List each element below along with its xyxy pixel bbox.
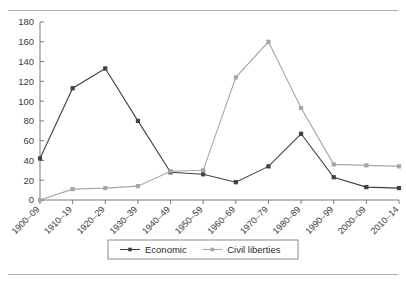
top-divider-rule	[8, 10, 398, 11]
data-series-group	[38, 40, 400, 201]
y-axis-tick-label: 120	[18, 76, 34, 87]
data-point	[234, 76, 237, 79]
y-axis: 020406080100120140160180	[18, 16, 44, 205]
figure-container: 020406080100120140160180 1900–091910–191…	[0, 0, 406, 284]
x-axis-tick-label: 1930–39	[107, 204, 139, 236]
data-point	[202, 173, 205, 176]
series-line-civil-liberties	[40, 42, 399, 200]
legend-marker	[210, 248, 214, 252]
y-axis-tick-label: 80	[23, 115, 34, 126]
data-point	[267, 165, 270, 168]
y-axis-tick-label: 40	[23, 155, 34, 166]
y-axis-tick-label: 140	[18, 56, 34, 67]
x-axis-tick-label: 2000–09	[336, 204, 368, 236]
data-point	[71, 87, 74, 90]
series-line-economic	[40, 68, 399, 188]
data-point	[136, 119, 139, 122]
y-axis-tick-label: 100	[18, 96, 34, 107]
y-axis-tick-label: 180	[18, 16, 34, 27]
data-point	[234, 181, 237, 184]
data-point	[71, 188, 74, 191]
x-axis: 1900–091910–191920–291930–391940–491950–…	[10, 200, 401, 236]
x-axis-tick-label: 2010–14	[369, 204, 401, 236]
data-point	[365, 164, 368, 167]
chart-plot-area: 020406080100120140160180 1900–091910–191…	[0, 12, 406, 262]
y-axis-tick-label: 60	[23, 135, 34, 146]
data-point	[38, 157, 41, 160]
legend-marker	[128, 248, 132, 252]
x-axis-tick-label: 1910–19	[42, 204, 74, 236]
x-axis-tick-label: 1960–69	[205, 204, 237, 236]
y-axis-tick-label: 20	[23, 175, 34, 186]
data-point	[397, 187, 400, 190]
data-point	[267, 40, 270, 43]
x-axis-tick-label: 1900–09	[10, 204, 42, 236]
data-point	[136, 185, 139, 188]
legend-label: Economic	[145, 244, 187, 255]
x-axis-tick-label: 1920–29	[75, 204, 107, 236]
chart-legend: EconomicCivil liberties	[108, 240, 298, 259]
data-point	[332, 176, 335, 179]
x-axis-tick-label: 1970–79	[238, 204, 270, 236]
x-axis-tick-label: 1980–89	[271, 204, 303, 236]
y-axis-tick-label: 0	[29, 194, 34, 205]
data-point	[365, 186, 368, 189]
data-point	[104, 187, 107, 190]
data-point	[104, 67, 107, 70]
bottom-divider-rule	[8, 274, 398, 275]
data-point	[38, 198, 41, 201]
x-axis-tick-label: 1940–49	[140, 204, 172, 236]
data-point	[299, 106, 302, 109]
data-point	[202, 169, 205, 172]
data-point	[299, 132, 302, 135]
data-point	[397, 165, 400, 168]
data-point	[169, 170, 172, 173]
data-point	[332, 163, 335, 166]
y-axis-tick-label: 160	[18, 36, 34, 47]
legend-label: Civil liberties	[227, 244, 281, 255]
x-axis-tick-label: 1990–99	[303, 204, 335, 236]
line-chart: 020406080100120140160180 1900–091910–191…	[0, 12, 406, 262]
x-axis-tick-label: 1950–59	[173, 204, 205, 236]
